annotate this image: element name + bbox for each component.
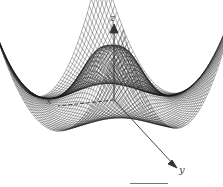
x-axis-label: x — [46, 95, 52, 106]
surface-plot — [0, 0, 223, 187]
scale-bar — [130, 183, 168, 184]
z-axis-label: z — [110, 12, 115, 23]
y-axis-label: y — [179, 164, 185, 175]
